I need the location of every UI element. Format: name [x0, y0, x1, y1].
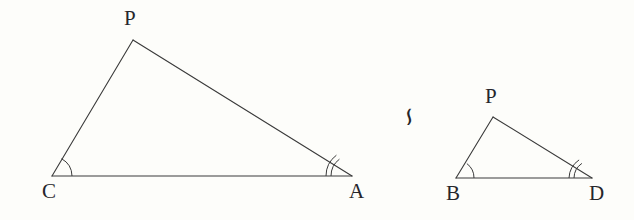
vertex-label-B: B	[446, 183, 460, 204]
vertex-label-A: A	[349, 181, 364, 202]
vertex-label-P-left: P	[124, 8, 136, 29]
left-triangle	[52, 40, 352, 176]
vertex-label-C: C	[42, 181, 56, 202]
angle-arc-C	[62, 159, 73, 176]
vertex-label-P-right: P	[485, 86, 497, 107]
edge-P-D	[493, 117, 592, 178]
geometry-canvas	[0, 0, 634, 220]
edge-P-A	[133, 40, 352, 176]
angle-arc-B	[467, 164, 474, 178]
edge-C-P	[52, 40, 133, 176]
similar-to-symbol: ∽	[396, 106, 422, 128]
similar-triangles-figure: C P A ∽ B P D	[0, 0, 634, 220]
edge-B-P	[456, 117, 493, 178]
right-triangle	[456, 117, 592, 178]
vertex-label-D: D	[589, 183, 604, 204]
